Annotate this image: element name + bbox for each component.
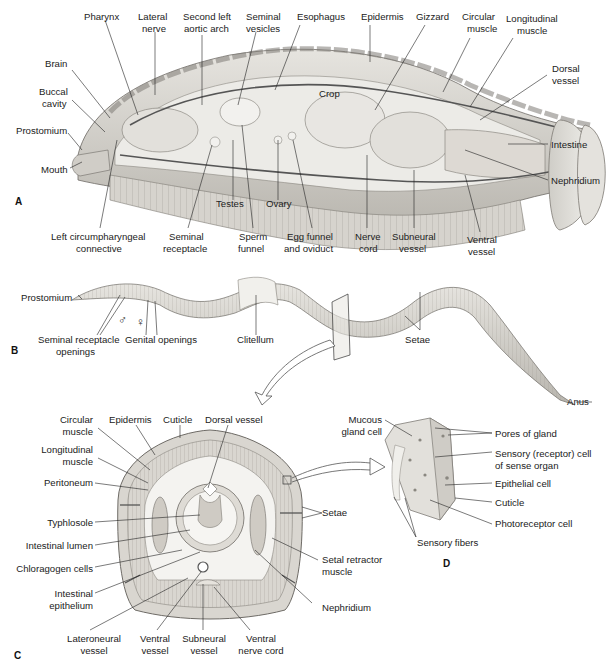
label-egg-funnel-line1: Egg funnel	[287, 231, 333, 242]
label-longitudinal-muscle-line2: muscle	[517, 25, 547, 36]
label-epidermis-c: Epidermis	[109, 414, 152, 425]
label-nephridium-a: Nephridium	[551, 175, 600, 186]
label-seminal-vesicles-line1: Seminal	[246, 11, 281, 22]
label-intestinal-epithelium-line2: epithelium	[30, 600, 93, 611]
label-prostomium-b: Prostomium	[21, 292, 72, 303]
label-cuticle-d: Cuticle	[495, 497, 524, 508]
label-dorsal-vessel-line2: vessel	[552, 75, 579, 86]
label-ventral-vessel-line2: vessel	[468, 246, 495, 257]
label-testes: Testes	[216, 198, 244, 209]
panel-letter-d: D	[443, 558, 450, 569]
label-egg-funnel-line2: and oviduct	[284, 243, 333, 254]
label-circular-muscle-c-line1: Circular	[58, 414, 93, 425]
label-photoreceptor-cell: Photoreceptor cell	[495, 518, 572, 529]
label-genital-openings: Genital openings	[125, 334, 197, 345]
label-nephridium-c: Nephridium	[322, 602, 371, 613]
female-symbol: ♀	[136, 317, 145, 328]
label-seminal-vesicles-line2: vesicles	[246, 23, 280, 34]
male-symbol: ♂	[118, 315, 127, 326]
label-ventral-nerve-cord-line1: Ventral	[232, 633, 290, 644]
label-lateroneural-line2: vessel	[62, 645, 126, 656]
label-anus: Anus	[567, 396, 589, 407]
label-second-left-aortic-arch-line2: aortic arch	[184, 23, 229, 34]
label-lateroneural-line1: Lateroneural	[62, 633, 126, 644]
label-lateral-nerve-line1: Lateral	[138, 11, 167, 22]
label-chloragogen-cells: Chloragogen cells	[5, 563, 93, 574]
label-cuticle-c: Cuticle	[163, 414, 192, 425]
label-intestine: Intestine	[551, 139, 587, 150]
label-seminal-receptacle-line1: Seminal	[169, 231, 204, 242]
label-longitudinal-muscle-line1: Longitudinal	[506, 13, 558, 24]
label-mucous-gland-line1: Mucous	[330, 414, 382, 425]
label-sperm-funnel-line2: funnel	[238, 243, 264, 254]
label-epithelial-cell: Epithelial cell	[495, 478, 551, 489]
panel-letter-a: A	[15, 196, 22, 207]
label-brain: Brain	[45, 58, 67, 69]
label-dorsal-vessel-c: Dorsal vessel	[205, 414, 263, 425]
label-circumpharyngeal-line2: connective	[76, 243, 122, 254]
label-setal-retractor-line2: muscle	[322, 566, 352, 577]
label-clitellum: Clitellum	[237, 334, 274, 345]
label-ovary: Ovary	[266, 198, 292, 209]
panel-letter-b: B	[11, 345, 18, 356]
label-nerve-cord-line2: cord	[359, 243, 378, 254]
label-seminal-receptacle-line2: receptacle	[163, 243, 207, 254]
panel-a-art	[68, 20, 605, 250]
label-subneural-vessel-c-line1: Subneural	[180, 633, 228, 644]
label-setal-retractor-line1: Setal retractor	[322, 554, 382, 565]
label-ventral-nerve-cord-line2: nerve cord	[232, 645, 290, 656]
label-sensory-cell-line1: Sensory (receptor) cell	[495, 448, 592, 459]
label-subneural-vessel-line1: Subneural	[392, 231, 436, 242]
label-seminal-receptacle-openings-line2: openings	[56, 346, 95, 357]
label-ventral-vessel-line1: Ventral	[467, 234, 497, 245]
panel-c-art	[90, 425, 385, 630]
label-buccal-cavity-line1: Buccal	[39, 86, 68, 97]
panel-d-art	[385, 418, 492, 537]
label-intestinal-lumen: Intestinal lumen	[10, 540, 93, 551]
label-circumpharyngeal-line1: Left circumpharyngeal	[51, 231, 145, 242]
label-peritoneum: Peritoneum	[30, 477, 93, 488]
label-circular-muscle-c-line2: muscle	[58, 426, 93, 437]
label-second-left-aortic-arch-line1: Second left	[183, 11, 231, 22]
label-lateral-nerve-line2: nerve	[142, 23, 166, 34]
label-epidermis: Epidermis	[361, 11, 404, 22]
label-dorsal-vessel-line1: Dorsal	[552, 63, 580, 74]
label-sensory-cell-line2: of sense organ	[495, 460, 558, 471]
label-ventral-vessel-c-line2: vessel	[135, 645, 175, 656]
label-buccal-cavity-line2: cavity	[42, 98, 67, 109]
label-setae-c: Setae	[322, 507, 347, 518]
label-seminal-receptacle-openings-line1: Seminal receptacle	[38, 334, 120, 345]
label-mouth: Mouth	[41, 164, 68, 175]
label-sensory-fibers: Sensory fibers	[417, 537, 478, 548]
label-crop: Crop	[319, 88, 340, 99]
earthworm-anatomy-figure: Pharynx Lateral nerve Second left aortic…	[0, 0, 606, 669]
label-setae-b: Setae	[405, 334, 430, 345]
label-pharynx: Pharynx	[84, 11, 119, 22]
label-longitudinal-muscle-c-line2: muscle	[30, 456, 93, 467]
label-sperm-funnel-line1: Sperm	[239, 231, 267, 242]
label-subneural-vessel-c-line2: vessel	[180, 645, 228, 656]
label-subneural-vessel-line2: vessel	[399, 243, 426, 254]
label-esophagus: Esophagus	[297, 11, 345, 22]
label-longitudinal-muscle-c-line1: Longitudinal	[30, 444, 93, 455]
label-gizzard: Gizzard	[416, 11, 449, 22]
label-ventral-vessel-c-line1: Ventral	[135, 633, 175, 644]
label-mucous-gland-line2: gland cell	[330, 426, 382, 437]
label-typhlosole: Typhlosole	[30, 517, 93, 528]
label-circular-muscle-line2: muscle	[467, 23, 497, 34]
label-pores-of-gland: Pores of gland	[495, 428, 557, 439]
label-prostomium-a: Prostomium	[16, 125, 67, 136]
label-intestinal-epithelium-line1: Intestinal	[30, 588, 93, 599]
label-nerve-cord-line1: Nerve	[355, 231, 381, 242]
panel-letter-c: C	[14, 650, 21, 661]
label-circular-muscle-line1: Circular	[462, 11, 495, 22]
